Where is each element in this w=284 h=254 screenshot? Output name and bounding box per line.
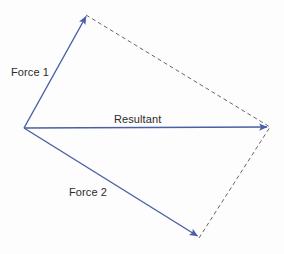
- vector-arrow-force2: [24, 128, 198, 236]
- construction-line-force2-to-resultant: [199, 127, 270, 238]
- construction-line-force1-to-resultant: [86, 15, 270, 127]
- vector-diagram-canvas: [0, 0, 284, 254]
- vector-label-force2: Force 2: [69, 186, 107, 198]
- force-vector-diagram: Force 1 Resultant Force 2: [0, 0, 284, 254]
- vector-label-force1: Force 1: [11, 66, 49, 78]
- vector-arrow-resultant: [24, 127, 267, 128]
- vector-label-resultant: Resultant: [114, 113, 161, 125]
